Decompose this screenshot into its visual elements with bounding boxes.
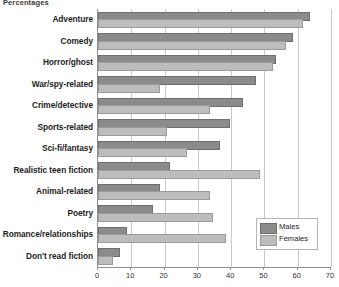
x-tick-label-40: 40	[226, 271, 234, 280]
bar-females	[98, 41, 286, 50]
bar-females	[98, 127, 167, 136]
x-tick-label-30: 30	[193, 271, 201, 280]
bar-chart: Percentages 010203040506070 AdventureCom…	[0, 0, 339, 287]
category-label-5: Sports-related	[0, 122, 93, 132]
bar-females	[98, 213, 213, 222]
bar-females	[98, 191, 210, 200]
x-tick-0	[97, 267, 98, 270]
bar-females	[98, 148, 187, 157]
x-tick-70	[330, 267, 331, 270]
bar-females	[98, 62, 273, 71]
x-tick-60	[297, 267, 298, 270]
x-tick-label-50: 50	[259, 271, 267, 280]
chart-title: Percentages	[3, 0, 49, 7]
chart-legend: MalesFemales	[256, 218, 318, 250]
category-label-2: Horror/ghost	[0, 57, 93, 67]
category-label-9: Poetry	[0, 208, 93, 218]
category-label-7: Realistic teen fiction	[0, 165, 93, 175]
bar-females	[98, 19, 303, 28]
category-label-3: War/spy-related	[0, 79, 93, 89]
x-tick-label-60: 60	[293, 271, 301, 280]
x-tick-10	[130, 267, 131, 270]
bar-females	[98, 170, 260, 179]
x-tick-30	[197, 267, 198, 270]
bar-females	[98, 234, 226, 243]
category-label-11: Don't read fiction	[0, 251, 93, 261]
x-tick-label-70: 70	[326, 271, 334, 280]
legend-swatch-females	[260, 235, 277, 246]
x-tick-20	[164, 267, 165, 270]
x-tick-40	[230, 267, 231, 270]
legend-label: Females	[279, 234, 308, 243]
x-tick-50	[263, 267, 264, 270]
category-label-10: Romance/relationships	[0, 229, 93, 239]
category-label-8: Animal-related	[0, 186, 93, 196]
bar-females	[98, 84, 160, 93]
legend-label: Males	[279, 222, 299, 231]
category-label-6: Sci-fi/fantasy	[0, 143, 93, 153]
legend-swatch-males	[260, 223, 277, 234]
x-tick-label-10: 10	[126, 271, 134, 280]
bar-females	[98, 256, 113, 265]
category-label-1: Comedy	[0, 36, 93, 46]
bar-females	[98, 105, 210, 114]
category-label-0: Adventure	[0, 14, 93, 24]
x-tick-label-0: 0	[95, 271, 99, 280]
x-tick-label-20: 20	[159, 271, 167, 280]
category-label-4: Crime/detective	[0, 100, 93, 110]
gridline-70	[331, 9, 332, 267]
